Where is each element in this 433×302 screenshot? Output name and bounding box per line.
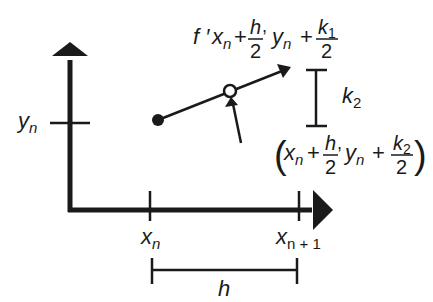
svg-text:yn: yn — [270, 24, 291, 52]
svg-text:f ′: f ′ — [193, 24, 210, 49]
svg-text:k2: k2 — [393, 132, 411, 157]
svg-text:k1: k1 — [318, 16, 336, 41]
y-axis-arrow-icon — [52, 42, 88, 56]
svg-text:2: 2 — [321, 40, 332, 62]
step-label: h — [218, 276, 230, 301]
svg-text:xn: xn — [283, 140, 303, 168]
k2-label: k2 — [342, 83, 361, 111]
svg-text:h: h — [250, 16, 261, 38]
midpoint-circle-icon — [224, 85, 236, 97]
svg-text:): ) — [414, 134, 427, 176]
midpoint-pointer — [225, 97, 241, 143]
svg-text:,: , — [262, 16, 267, 36]
pointer-arrow-icon — [225, 97, 238, 107]
svg-text:xn: xn — [211, 24, 231, 52]
midpoint-formula: ( xn + h 2 , yn + k2 2 ) — [274, 132, 427, 178]
svg-text:+: + — [300, 24, 313, 49]
x-axis-arrow-icon — [313, 190, 333, 230]
svg-text:+: + — [234, 24, 247, 49]
rk-diagram: yn xn xn + 1 h k2 f ′ xn + h — [0, 0, 433, 302]
x-n-label: xn — [140, 224, 160, 252]
svg-text:2: 2 — [396, 156, 407, 178]
slope-line — [152, 64, 291, 126]
x-axis — [68, 190, 333, 230]
svg-text:2: 2 — [250, 40, 261, 62]
y-axis — [52, 42, 88, 212]
svg-text:+: + — [372, 140, 385, 165]
k2-bracket — [306, 70, 327, 126]
slope-formula: f ′ xn + h 2 , yn + k1 2 — [193, 16, 338, 62]
svg-text:yn: yn — [343, 140, 364, 168]
svg-text:+: + — [307, 140, 320, 165]
svg-text:h: h — [325, 132, 336, 154]
svg-text:,: , — [337, 133, 342, 153]
svg-text:2: 2 — [325, 156, 336, 178]
y-n-label: yn — [16, 108, 37, 136]
